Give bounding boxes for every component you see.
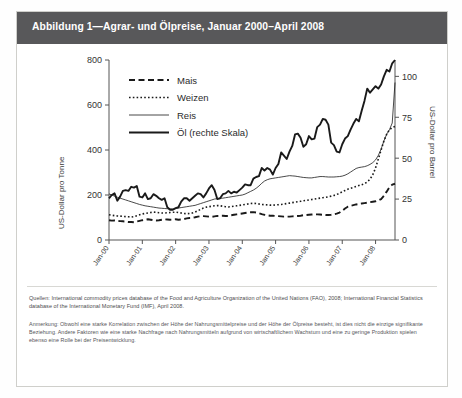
price-line-chart: 0200400600800 0255075100 Jan-00Jan-01Jan…	[17, 44, 449, 284]
y-axis-left-tick-label: 0	[97, 235, 102, 245]
y-axis-right-tick-label: 75	[402, 113, 412, 123]
x-axis-tick-label: Jan-07	[324, 244, 344, 267]
figure-notes-region: Quellen: International commodity prices …	[17, 286, 447, 386]
series-line-reis	[109, 83, 395, 209]
y-axis-right-tick-label: 25	[402, 194, 412, 204]
chart-plot-region: US-Dollar pro Tonne US-Dollar pro Barrel…	[17, 44, 447, 284]
y-axis-left-tick-label: 400	[87, 145, 102, 155]
y-axis-right-title: US-Dollar pro Barrel	[428, 106, 437, 178]
y-axis-right-tick-label: 100	[402, 72, 417, 82]
y-axis-left-tick-label: 800	[87, 55, 102, 65]
y-axis-left-ticks: 0200400600800	[87, 55, 109, 245]
y-axis-right-ticks: 0255075100	[395, 72, 417, 246]
x-axis-tick-label: Jan-03	[191, 244, 211, 267]
figure-note-text: Anmerkung: Obwohl eine starke Korrelatio…	[29, 320, 435, 344]
x-axis-tick-label: Jan-08	[357, 244, 377, 267]
chart-series-layer	[109, 60, 395, 222]
y-axis-right-tick-label: 50	[402, 154, 412, 164]
notes-divider	[27, 286, 437, 287]
series-line-weizen	[109, 126, 395, 217]
x-axis-tick-label: Jan-01	[124, 244, 144, 267]
chart-legend: MaisWeizenReisÖl (rechte Skala)	[129, 75, 248, 139]
y-axis-right-tick-label: 0	[402, 235, 407, 245]
legend-label: Reis	[177, 110, 196, 121]
x-axis-tick-label: Jan-00	[91, 244, 111, 267]
figure-title-bar: Abbildung 1—Agrar- und Ölpreise, Januar …	[17, 12, 447, 44]
x-axis-tick-label: Jan-02	[157, 244, 177, 267]
legend-label: Mais	[177, 75, 197, 86]
y-axis-left-title: US-Dollar pro Tonne	[57, 157, 66, 229]
legend-label: Weizen	[177, 92, 209, 103]
x-axis-tick-label: Jan-06	[291, 244, 311, 267]
legend-label: Öl (rechte Skala)	[177, 127, 248, 138]
x-axis-tick-label: Jan-04	[224, 244, 244, 267]
y-axis-left-tick-label: 200	[87, 190, 102, 200]
figure-container: Abbildung 1—Agrar- und Ölpreise, Januar …	[16, 11, 448, 387]
figure-source-text: Quellen: International commodity prices …	[29, 294, 435, 311]
figure-root: Abbildung 1—Agrar- und Ölpreise, Januar …	[0, 0, 462, 398]
y-axis-left-tick-label: 600	[87, 100, 102, 110]
x-axis-tick-label: Jan-05	[257, 244, 277, 267]
x-axis-ticks: Jan-00Jan-01Jan-02Jan-03Jan-04Jan-05Jan-…	[91, 240, 378, 267]
figure-title: Abbildung 1—Agrar- und Ölpreise, Januar …	[32, 21, 324, 32]
